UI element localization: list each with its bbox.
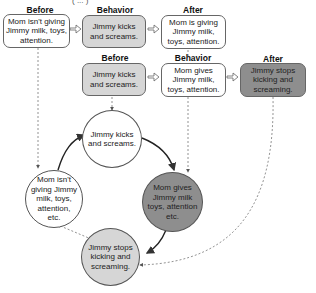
cycle-top-circle: Jimmy kicks and screams. <box>82 110 142 168</box>
cycle-right-circle: Mom gives Jimmy milk toys, attention etc… <box>142 172 203 232</box>
second-before-box: Jimmy kicks and screams. <box>82 63 146 96</box>
second-behavior-header: Behavior <box>163 53 223 63</box>
second-after-box: Jimmy stops kicking and screaming. <box>240 63 306 97</box>
cycle-bottom-circle: Jimmy stops kicking and screaming. <box>81 228 140 286</box>
top-behavior-box: Jimmy kicks and screams. <box>82 15 146 48</box>
cycle-left-circle: Mom isn't giving Jimmy milk, toys, atten… <box>25 170 83 228</box>
top-before-box: Mom isn't giving Jimmy milk, toys, atten… <box>3 14 70 48</box>
second-behavior-box: Mom gives Jimmy milk, toys, attention. <box>161 63 226 97</box>
top-after-header: After <box>163 5 223 15</box>
second-before-header: Before <box>85 53 145 63</box>
top-behavior-header: Behavior <box>85 5 145 15</box>
top-after-box: Mom is giving Jimmy milk, toys, attentio… <box>161 15 226 49</box>
